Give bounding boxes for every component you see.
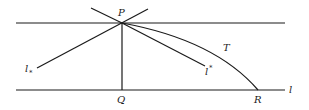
label-r: R xyxy=(253,94,262,105)
label-l-upper: l xyxy=(205,66,208,77)
label-p: P xyxy=(117,7,125,18)
label-l-lower: l xyxy=(25,63,28,74)
label-q: Q xyxy=(117,94,125,105)
label-l-upper-star: * xyxy=(209,64,213,72)
label-t: T xyxy=(223,42,231,53)
label-l-lower-star: * xyxy=(29,69,33,77)
line-l-lower-star xyxy=(37,9,148,68)
diagram-canvas: P Q R l T l * l * xyxy=(0,0,309,110)
line-l-upper-star xyxy=(122,23,205,66)
label-l: l xyxy=(289,84,292,95)
